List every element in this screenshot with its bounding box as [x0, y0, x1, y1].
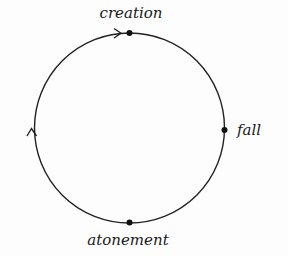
- node-dot-atonement: [127, 220, 133, 226]
- node-label-creation: creation: [100, 4, 163, 22]
- node-label-fall: fall: [236, 121, 261, 139]
- node-dot-creation: [127, 30, 133, 36]
- node-label-atonement: atonement: [87, 231, 169, 249]
- cycle-circle: [35, 33, 225, 223]
- cycle-diagram: creation fall atonement: [0, 0, 288, 256]
- node-dot-fall: [222, 127, 228, 133]
